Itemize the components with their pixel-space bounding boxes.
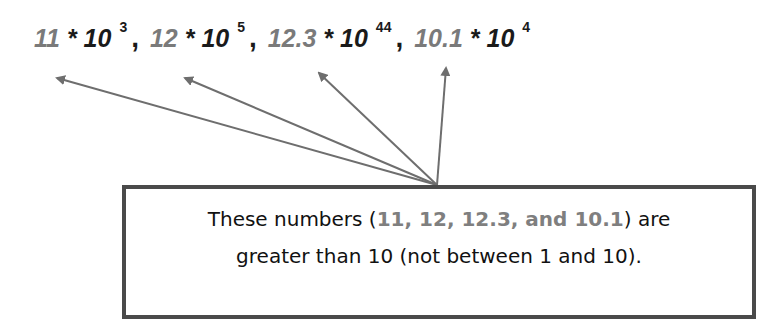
callout-line-1: These numbers (11, 12, 12.3, and 10.1) a… [126, 201, 752, 238]
callout-line-2: greater than 10 (not between 1 and 10). [126, 238, 752, 275]
arrow-to-term-2 [185, 78, 437, 185]
callout-text: These numbers (11, 12, 12.3, and 10.1) a… [126, 189, 752, 275]
highlighted-numbers: 11, 12, 12.3, and 10.1 [377, 207, 624, 231]
callout-suffix: ) are [624, 207, 671, 231]
arrow-to-term-4 [437, 68, 446, 185]
callout-prefix: These numbers ( [208, 207, 377, 231]
explanation-callout-box: These numbers (11, 12, 12.3, and 10.1) a… [122, 185, 756, 319]
